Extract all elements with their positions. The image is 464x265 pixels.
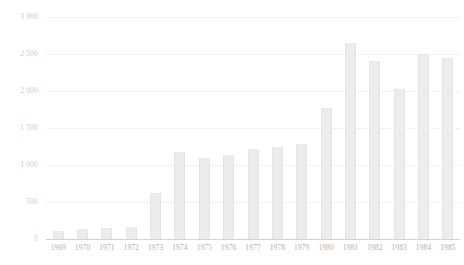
bar-slot (436, 17, 460, 239)
bar (101, 228, 112, 239)
x-axis-tick-label: 1979 (290, 241, 314, 261)
x-axis-line (46, 239, 460, 240)
y-axis-tick-label: 1 500 (0, 124, 38, 132)
bar (53, 231, 64, 239)
x-axis-tick-label: 1974 (168, 241, 192, 261)
bar-slot (265, 17, 289, 239)
bar-slot (338, 17, 362, 239)
bar (418, 54, 429, 239)
bar-slot (70, 17, 94, 239)
bar-slot (143, 17, 167, 239)
plot-area: 3 0002 5002 0001 5001 0005000 (46, 17, 460, 239)
y-axis-tick-label: 0 (0, 235, 38, 243)
bar (174, 152, 185, 239)
bar-chart: 3 0002 5002 0001 5001 0005000 1969197019… (0, 0, 464, 265)
bar-slot (95, 17, 119, 239)
bar-series (46, 17, 460, 239)
bar (223, 155, 234, 239)
x-axis-ticks: 1969197019711972197319741975197619771978… (46, 241, 460, 261)
y-axis-tick-label: 2 500 (0, 50, 38, 58)
bar-slot (363, 17, 387, 239)
x-axis-tick-label: 1985 (436, 241, 460, 261)
bar-slot (241, 17, 265, 239)
x-axis-tick-label: 1975 (192, 241, 216, 261)
x-axis-tick-label: 1971 (95, 241, 119, 261)
x-axis-tick-label: 1983 (387, 241, 411, 261)
bar (150, 193, 161, 239)
x-axis-tick-label: 1972 (119, 241, 143, 261)
y-axis-tick-label: 500 (0, 198, 38, 206)
y-axis-tick-label: 2 000 (0, 87, 38, 95)
x-axis-tick-label: 1973 (143, 241, 167, 261)
bar-slot (192, 17, 216, 239)
bar-slot (217, 17, 241, 239)
x-axis-tick-label: 1980 (314, 241, 338, 261)
bar (272, 147, 283, 239)
bar (77, 229, 88, 239)
bar (394, 89, 405, 239)
bar (199, 158, 210, 239)
x-axis-tick-label: 1984 (411, 241, 435, 261)
x-axis-tick-label: 1977 (241, 241, 265, 261)
bar-slot (411, 17, 435, 239)
x-axis-tick-label: 1981 (338, 241, 362, 261)
x-axis-tick-label: 1978 (265, 241, 289, 261)
bar (442, 58, 453, 239)
bar (126, 227, 137, 239)
bar-slot (290, 17, 314, 239)
bar (296, 144, 307, 239)
bar-slot (119, 17, 143, 239)
x-axis-tick-label: 1982 (363, 241, 387, 261)
y-axis-tick-label: 3 000 (0, 13, 38, 21)
bar (369, 61, 380, 239)
bar-slot (46, 17, 70, 239)
bar-slot (314, 17, 338, 239)
x-axis-tick-label: 1976 (217, 241, 241, 261)
x-axis-tick-label: 1970 (70, 241, 94, 261)
y-axis-tick-label: 1 000 (0, 161, 38, 169)
bar (345, 43, 356, 239)
bar-slot (168, 17, 192, 239)
x-axis-tick-label: 1969 (46, 241, 70, 261)
bar (248, 149, 259, 239)
bar-slot (387, 17, 411, 239)
bar (321, 108, 332, 239)
